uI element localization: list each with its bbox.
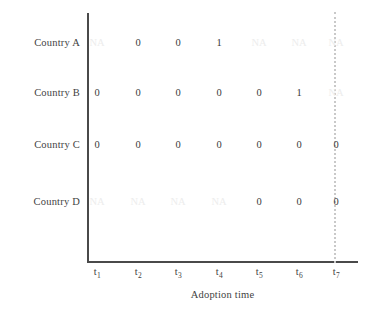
- row-label-country-c: Country C: [0, 139, 80, 150]
- row-label-country-a: Country A: [0, 37, 80, 48]
- cell-a-t3: 0: [165, 37, 191, 49]
- cell-a-t6: NA: [286, 37, 312, 49]
- x-tick-t6-sub: 6: [299, 271, 303, 280]
- x-axis-title: Adoption time: [87, 289, 358, 300]
- x-tick-t1: t1: [82, 266, 112, 277]
- x-tick-t5: t5: [244, 266, 274, 277]
- x-tick-t3-sub: 3: [178, 271, 182, 280]
- cell-d-t4: NA: [206, 196, 232, 208]
- x-tick-t3: t3: [163, 266, 193, 277]
- cell-b-t1: 0: [84, 87, 110, 99]
- cell-d-t2: NA: [125, 196, 151, 208]
- x-tick-t4-sub: 4: [219, 271, 223, 280]
- cell-a-t7: NA: [323, 37, 349, 49]
- x-tick-t4: t4: [204, 266, 234, 277]
- cell-c-t4: 0: [206, 139, 232, 151]
- cell-c-t1: 0: [84, 139, 110, 151]
- cell-c-t7: 0: [323, 139, 349, 151]
- x-axis-line: [87, 261, 358, 263]
- cell-d-t5: 0: [246, 196, 272, 208]
- cell-b-t5: 0: [246, 87, 272, 99]
- x-tick-t1-sub: 1: [97, 271, 101, 280]
- cell-b-t3: 0: [165, 87, 191, 99]
- cell-d-t6: 0: [286, 196, 312, 208]
- cell-c-t5: 0: [246, 139, 272, 151]
- x-tick-t2-sub: 2: [138, 271, 142, 280]
- cell-a-t4: 1: [206, 37, 232, 49]
- cell-c-t6: 0: [286, 139, 312, 151]
- row-label-country-d: Country D: [0, 196, 80, 207]
- x-tick-t2: t2: [123, 266, 153, 277]
- cell-d-t7: 0: [323, 196, 349, 208]
- y-axis-line: [87, 13, 89, 263]
- cell-d-t3: NA: [165, 196, 191, 208]
- cell-a-t5: NA: [246, 37, 272, 49]
- x-tick-t6: t6: [284, 266, 314, 277]
- x-tick-t7-sub: 7: [336, 271, 340, 280]
- cell-b-t2: 0: [125, 87, 151, 99]
- cell-b-t4: 0: [206, 87, 232, 99]
- cell-b-t7: NA: [323, 87, 349, 99]
- row-label-country-b: Country B: [0, 87, 80, 98]
- x-tick-t5-sub: 5: [259, 271, 263, 280]
- x-tick-t7: t7: [321, 266, 351, 277]
- reference-line-t7: [334, 12, 336, 263]
- cell-c-t3: 0: [165, 139, 191, 151]
- cell-c-t2: 0: [125, 139, 151, 151]
- adoption-time-chart: Country A Country B Country C Country D …: [0, 0, 379, 312]
- cell-b-t6: 1: [286, 87, 312, 99]
- cell-a-t1: NA: [84, 37, 110, 49]
- cell-d-t1: NA: [84, 196, 110, 208]
- cell-a-t2: 0: [125, 37, 151, 49]
